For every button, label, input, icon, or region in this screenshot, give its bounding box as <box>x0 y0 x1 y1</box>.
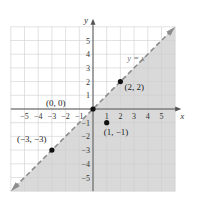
y-tick-label: −1 <box>81 119 90 128</box>
x-tick-label: 4 <box>146 112 150 121</box>
x-tick-label: 3 <box>132 112 136 121</box>
x-tick-label: −3 <box>48 112 57 121</box>
point-label: (1, −1) <box>104 127 129 137</box>
y-tick-label: −4 <box>81 160 90 169</box>
y-axis-label: y <box>83 15 88 25</box>
y-tick-label: 5 <box>86 37 90 46</box>
x-tick-label: 2 <box>118 112 122 121</box>
data-point <box>49 148 54 153</box>
x-tick-label: −4 <box>34 112 43 121</box>
y-tick-label: −3 <box>81 146 90 155</box>
y-axis-arrow-icon <box>91 19 96 25</box>
y-tick-label: 4 <box>86 50 90 59</box>
y-tick-label: 1 <box>86 91 90 100</box>
point-label: (2, 2) <box>124 82 143 92</box>
y-tick-label: 3 <box>86 64 90 73</box>
line-label: y = x <box>126 53 145 63</box>
y-tick-label: −2 <box>81 132 90 141</box>
y-tick-label: −5 <box>81 174 90 183</box>
data-point <box>90 106 95 111</box>
x-tick-label: 1 <box>105 112 109 121</box>
x-axis-label: x <box>179 111 184 121</box>
x-tick-label: −5 <box>20 112 29 121</box>
data-point <box>118 79 123 84</box>
point-label: (−3, −3) <box>17 134 47 144</box>
coordinate-plot: xy−5−4−3−2−112345−5−4−3−2−112345y = x(0,… <box>0 0 200 197</box>
y-tick-label: 2 <box>86 78 90 87</box>
point-label: (0, 0) <box>46 98 66 108</box>
data-point <box>104 120 109 125</box>
x-tick-label: 5 <box>160 112 164 121</box>
x-tick-label: −2 <box>61 112 70 121</box>
